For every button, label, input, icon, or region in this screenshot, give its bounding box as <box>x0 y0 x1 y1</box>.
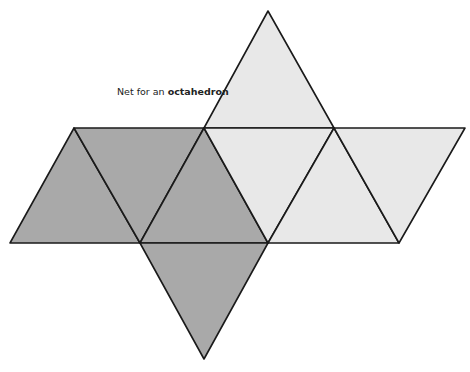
caption-prefix: Net for an <box>117 86 168 97</box>
diagram-caption: Net for an octahedron <box>117 86 229 97</box>
octahedron-net-diagram <box>0 0 470 372</box>
net-face-4 <box>140 243 268 359</box>
net-face-5 <box>204 11 334 128</box>
caption-emphasis: octahedron <box>168 86 229 97</box>
